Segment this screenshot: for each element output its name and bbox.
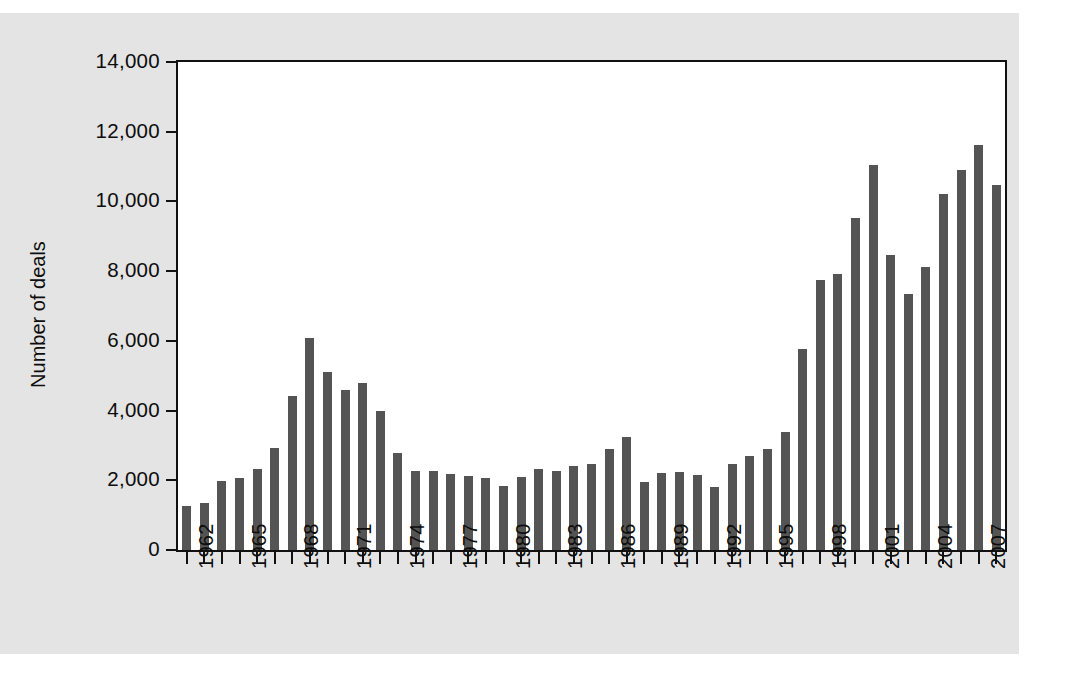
bar <box>534 469 543 550</box>
x-axis-tick-mark <box>942 552 944 564</box>
x-axis-tick-mark <box>960 552 962 564</box>
bar <box>974 145 983 550</box>
x-axis-tick-mark <box>327 552 329 564</box>
bar <box>182 506 191 550</box>
x-axis-tick-label: 1983 <box>564 523 587 569</box>
x-axis-tick-mark <box>854 552 856 564</box>
x-axis-tick-mark <box>309 552 311 564</box>
y-axis-tick-label: 0 <box>148 539 160 560</box>
x-axis-tick-mark <box>925 552 927 564</box>
y-axis-tick-mark <box>166 61 177 63</box>
x-axis-tick-mark <box>643 552 645 564</box>
x-axis-tick-mark <box>784 552 786 564</box>
x-axis-tick-label: 2001 <box>881 523 904 569</box>
x-axis-tick-mark <box>802 552 804 564</box>
x-axis-tick-mark <box>274 552 276 564</box>
x-axis-tick-mark <box>397 552 399 564</box>
bar <box>499 486 508 550</box>
x-axis-tick-label: 1986 <box>617 523 640 569</box>
bar <box>939 194 948 550</box>
bar <box>640 482 649 550</box>
bar <box>270 448 279 550</box>
bar <box>446 474 455 550</box>
bar <box>763 449 772 550</box>
x-axis-tick-mark <box>467 552 469 564</box>
y-axis-title: Number of deals <box>27 220 50 410</box>
bar <box>235 478 244 550</box>
x-axis-tick-mark <box>872 552 874 564</box>
y-axis-tick-label: 6,000 <box>107 330 160 351</box>
x-axis-tick-label: 1989 <box>670 523 693 569</box>
bar <box>288 396 297 550</box>
bar <box>693 475 702 550</box>
bar <box>904 294 913 550</box>
x-axis-tick-mark <box>591 552 593 564</box>
x-axis-tick-mark <box>678 552 680 564</box>
bar <box>587 464 596 550</box>
x-axis-tick-mark <box>907 552 909 564</box>
x-axis-tick-mark <box>819 552 821 564</box>
bar <box>305 338 314 550</box>
bar <box>798 349 807 550</box>
y-axis-tick-mark <box>166 200 177 202</box>
y-axis-tick-label: 8,000 <box>107 260 160 281</box>
x-axis-tick-mark <box>256 552 258 564</box>
bar <box>341 390 350 550</box>
bar <box>869 165 878 550</box>
y-axis-tick-mark <box>166 479 177 481</box>
x-axis-tick-mark <box>573 552 575 564</box>
y-axis-tick-mark <box>166 340 177 342</box>
x-axis-tick-mark <box>608 552 610 564</box>
bar <box>217 481 226 550</box>
y-axis-tick-label: 14,000 <box>95 51 160 72</box>
x-axis-tick-mark <box>344 552 346 564</box>
x-axis-tick-mark <box>203 552 205 564</box>
bar <box>992 185 1001 550</box>
x-axis-tick-label: 1980 <box>512 523 535 569</box>
x-axis-tick-label: 1962 <box>195 523 218 569</box>
x-axis-tick-mark <box>661 552 663 564</box>
bar <box>376 411 385 550</box>
bar <box>393 453 402 550</box>
bar <box>851 218 860 550</box>
x-axis-tick-mark <box>239 552 241 564</box>
x-axis-tick-mark <box>485 552 487 564</box>
y-axis-tick-mark <box>166 410 177 412</box>
x-axis-tick-label: 1971 <box>353 523 376 569</box>
x-axis-tick-mark <box>766 552 768 564</box>
x-axis-tick-mark <box>503 552 505 564</box>
x-axis-tick-mark <box>450 552 452 564</box>
bar <box>886 255 895 550</box>
x-axis-tick-mark <box>379 552 381 564</box>
x-axis-tick-mark <box>837 552 839 564</box>
x-axis-tick-label: 1977 <box>459 523 482 569</box>
y-axis-tick-label: 12,000 <box>95 121 160 142</box>
y-axis-tick-label: 2,000 <box>107 469 160 490</box>
bar-chart-figure: 02,0004,0006,0008,00010,00012,00014,000 … <box>0 13 1019 654</box>
x-axis-tick-mark <box>731 552 733 564</box>
y-axis-labels: 02,0004,0006,0008,00010,00012,00014,000 <box>0 13 160 654</box>
x-axis-tick-mark <box>415 552 417 564</box>
bar <box>552 471 561 550</box>
bar <box>710 487 719 550</box>
y-axis-tick-mark <box>166 549 177 551</box>
plot-area <box>178 62 1005 550</box>
x-axis-tick-label: 1992 <box>723 523 746 569</box>
x-axis-tick-mark <box>538 552 540 564</box>
bar <box>429 471 438 550</box>
x-axis-tick-mark <box>696 552 698 564</box>
x-axis-tick-mark <box>432 552 434 564</box>
bar <box>745 456 754 550</box>
x-axis-tick-mark <box>221 552 223 564</box>
x-axis-tick-mark <box>714 552 716 564</box>
bar <box>605 449 614 550</box>
x-axis-tick-label: 2004 <box>934 523 957 569</box>
x-axis-tick-label: 1995 <box>775 523 798 569</box>
x-axis-tick-label: 1974 <box>406 523 429 569</box>
y-axis-tick-mark <box>166 270 177 272</box>
x-axis-tick-mark <box>186 552 188 564</box>
x-axis-tick-mark <box>362 552 364 564</box>
x-axis-tick-label: 1965 <box>248 523 271 569</box>
x-axis-tick-mark <box>978 552 980 564</box>
x-axis-tick-label: 2007 <box>987 523 1010 569</box>
